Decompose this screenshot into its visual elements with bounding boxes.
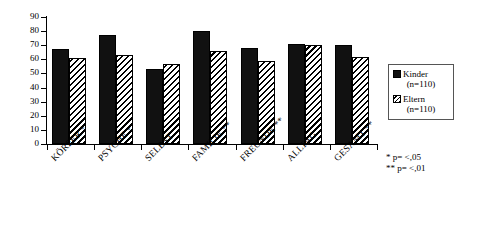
legend-sublabel-kinder: (n=110) [393, 79, 449, 89]
x-axis-tick [330, 145, 331, 150]
y-axis-tick-label: 40 [14, 83, 39, 92]
legend-entry-kinder: Kinder (n=110) [393, 69, 449, 89]
legend-label-kinder: Kinder [403, 69, 428, 79]
y-axis-tick-label-text: 90 [17, 12, 39, 21]
y-axis-tick-label: 90 [14, 12, 39, 21]
significance-note-line-1: * p= <,05 [386, 152, 425, 163]
x-axis-tick [47, 145, 48, 150]
legend-label-eltern: Eltern [403, 94, 425, 104]
bar-kinder [99, 35, 116, 144]
x-axis-tick [236, 145, 237, 150]
x-axis-tick [188, 145, 189, 150]
y-axis-tick-label-text: 60 [17, 54, 39, 63]
legend-sublabel-eltern: (n=110) [393, 104, 449, 114]
y-axis-tick-label-text: 70 [17, 40, 39, 49]
y-axis-tick-label-text: 50 [17, 68, 39, 77]
x-axis-tick [94, 145, 95, 150]
significance-note: * p= <,05 ** p= <,01 [386, 152, 425, 174]
y-axis-tick-label: 60 [14, 54, 39, 63]
y-axis-tick-label-text: 30 [17, 97, 39, 106]
y-axis-tick-label: 20 [14, 111, 39, 120]
bar-kinder [52, 49, 69, 144]
y-axis-tick-label-text: 20 [17, 111, 39, 120]
bar-kinder [241, 48, 258, 144]
y-axis-tick-label: 80 [14, 26, 39, 35]
y-axis-tick-label-text: 10 [17, 125, 39, 134]
y-axis-tick-label-text: 40 [17, 83, 39, 92]
legend-swatch-kinder-icon [393, 70, 401, 78]
y-axis-tick-label-text: 80 [17, 26, 39, 35]
y-axis-tick-label: 30 [14, 97, 39, 106]
y-axis-tick-label: 10 [14, 125, 39, 134]
x-axis-tick [377, 145, 378, 150]
y-axis-tick-label: 50 [14, 68, 39, 77]
legend-swatch-eltern-icon [393, 95, 401, 103]
bar-eltern [305, 45, 322, 144]
y-axis-tick-label-text: 0 [17, 139, 39, 148]
significance-note-line-2: ** p= <,01 [386, 163, 425, 174]
x-axis-tick [141, 145, 142, 150]
x-axis-tick [283, 145, 284, 150]
bar-kinder [193, 31, 210, 144]
plot-area [47, 17, 377, 144]
y-axis-tick-label: 0 [14, 139, 39, 148]
bar-kinder [335, 45, 352, 144]
bar-kinder [288, 44, 305, 144]
y-axis-tick-label: 70 [14, 40, 39, 49]
chart-legend: Kinder (n=110) Eltern (n=110) [388, 64, 454, 120]
legend-entry-eltern: Eltern (n=110) [393, 94, 449, 114]
bar-chart: 9080706050403020100 KÖRPER *PSYCHE *SELB… [0, 0, 478, 225]
bar-kinder [146, 69, 163, 144]
